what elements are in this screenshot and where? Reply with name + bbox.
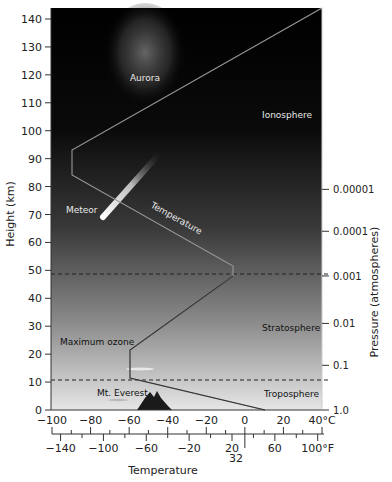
height-tick-label: 120 xyxy=(21,69,42,82)
height-tick-label: 60 xyxy=(28,236,42,249)
cloud-icon-2 xyxy=(108,399,128,401)
fahrenheit-tick-label: −20 xyxy=(178,442,201,455)
fahrenheit-tick-label: 60 xyxy=(268,442,282,455)
celsius-tick-label: −20 xyxy=(195,414,218,427)
height-tick-label: 30 xyxy=(28,320,42,333)
stratosphere-label: Stratosphere xyxy=(262,323,321,333)
fahrenheit-tick-label: 100°F xyxy=(301,442,334,455)
pressure-tick-label: 0.00001 xyxy=(333,184,374,195)
height-tick-label: 140 xyxy=(21,13,42,26)
height-tick-label: 50 xyxy=(28,264,42,277)
height-tick-label: 100 xyxy=(21,125,42,138)
meteor-label: Meteor xyxy=(66,205,98,215)
celsius-tick-label: 0 xyxy=(241,414,248,427)
celsius-tick-label: −60 xyxy=(118,414,141,427)
celsius-tick-label: −100 xyxy=(37,414,67,427)
celsius-tick-label: −80 xyxy=(79,414,102,427)
height-tick-label: 40 xyxy=(28,292,42,305)
aurora-label: Aurora xyxy=(130,73,160,83)
height-tick-label: 80 xyxy=(28,181,42,194)
fahrenheit-tick-label: −60 xyxy=(135,442,158,455)
celsius-scale: −100−80−60−40−2002040°C xyxy=(37,414,336,434)
celsius-tick-label: −40 xyxy=(156,414,179,427)
height-tick-label: 90 xyxy=(28,153,42,166)
pressure-axis-title: Pressure (atmospheres) xyxy=(368,227,381,358)
fahrenheit-tick-label: −100 xyxy=(88,442,118,455)
temperature-axis-title: Temperature xyxy=(127,464,198,477)
pressure-tick-label: 0.1 xyxy=(333,360,349,371)
ionosphere-label: Ionosphere xyxy=(262,110,313,120)
celsius-tick-label: 40°C xyxy=(308,414,335,427)
everest-label: Mt. Everest xyxy=(97,388,148,398)
height-tick-label: 130 xyxy=(21,41,42,54)
height-axis-ticks: 0102030405060708090100110120130140 xyxy=(21,13,51,417)
troposphere-label: Troposphere xyxy=(263,389,320,399)
max-ozone-label: Maximum ozone xyxy=(60,337,135,347)
height-tick-label: 70 xyxy=(28,209,42,222)
fahrenheit-scale: −140−100−60−202060100°F xyxy=(45,434,334,455)
pressure-axis-ticks: 1.00.10.010.0010.00010.00001 xyxy=(322,184,374,416)
fahrenheit-32-label: 32 xyxy=(229,452,243,465)
height-axis-title: Height (km) xyxy=(4,181,17,247)
aurora-glow xyxy=(103,3,187,113)
pressure-tick-label: 0.01 xyxy=(333,318,355,329)
pressure-tick-label: 0.0001 xyxy=(333,226,368,237)
height-tick-label: 10 xyxy=(28,376,42,389)
atmosphere-diagram: Aurora Ionosphere Meteor Temperature Max… xyxy=(0,0,392,482)
celsius-tick-label: 20 xyxy=(276,414,290,427)
height-tick-label: 110 xyxy=(21,97,42,110)
height-tick-label: 20 xyxy=(28,348,42,361)
pressure-tick-label: 0.001 xyxy=(333,271,362,282)
fahrenheit-tick-label: −140 xyxy=(45,442,75,455)
